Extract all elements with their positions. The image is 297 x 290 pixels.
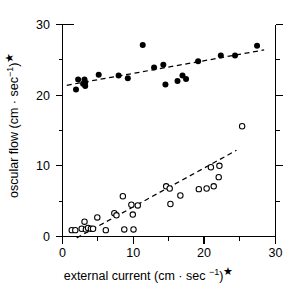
data-point: [73, 227, 78, 232]
data-points-filled: [73, 42, 260, 93]
data-point: [122, 227, 127, 232]
data-point: [116, 72, 122, 78]
data-point: [196, 186, 201, 191]
scatter-plot-figure: 30 20 10 0 0 10 20 30 external current (…: [0, 0, 297, 290]
data-point: [162, 82, 168, 88]
x-tick-label-10: 10: [126, 246, 140, 260]
data-point: [151, 65, 157, 71]
data-point: [168, 201, 173, 206]
data-point: [140, 42, 146, 48]
data-point: [90, 226, 95, 231]
y-axis-title-wrap: oscular flow (cm · sec−1)★: [0, 0, 26, 250]
y-tick-label-30: 30: [36, 18, 50, 32]
trend-line-open-circles: [77, 150, 237, 238]
data-point: [120, 194, 125, 199]
x-tick-label-0: 0: [59, 246, 66, 260]
y-axis-title: oscular flow (cm · sec−1)★: [5, 52, 22, 197]
data-point: [135, 203, 140, 208]
data-point: [95, 215, 100, 220]
data-point: [211, 184, 216, 189]
data-point: [160, 62, 166, 68]
data-point: [239, 124, 244, 129]
data-point: [167, 186, 172, 191]
y-axis-ticks: [56, 25, 63, 237]
data-point: [175, 78, 181, 84]
y-tick-labels: 30 20 10 0: [36, 18, 50, 244]
data-point: [82, 219, 87, 224]
data-point: [208, 165, 213, 170]
x-axis-ticks: [63, 237, 276, 244]
y-axis-title-text: oscular flow (cm · sec−1)★: [8, 52, 22, 197]
data-point: [114, 213, 119, 218]
y-axis-right-ticks: [276, 25, 283, 202]
data-point: [103, 227, 108, 232]
x-axis-title: external current (cm · sec −1)★: [0, 266, 297, 283]
data-point: [73, 87, 79, 93]
y-tick-label-20: 20: [36, 89, 50, 103]
data-point: [130, 212, 135, 217]
x-tick-label-30: 30: [269, 246, 283, 260]
data-points-open: [69, 124, 245, 233]
data-point: [75, 77, 81, 83]
data-point: [218, 53, 224, 59]
x-tick-labels: 0 10 20 30: [59, 246, 282, 260]
data-point: [217, 163, 222, 168]
y-tick-label-10: 10: [36, 159, 50, 173]
data-point: [183, 76, 189, 82]
data-point: [232, 53, 238, 59]
data-point: [178, 193, 183, 198]
plot-area: 30 20 10 0 0 10 20 30: [0, 0, 297, 290]
data-point: [195, 58, 201, 64]
x-tick-label-20: 20: [197, 246, 211, 260]
data-point: [204, 186, 209, 191]
data-point: [82, 83, 88, 89]
trend-lines: [67, 50, 264, 238]
data-point: [131, 227, 136, 232]
data-point: [216, 174, 221, 179]
data-point: [254, 43, 260, 49]
data-point: [96, 72, 102, 78]
y-tick-label-0: 0: [43, 230, 50, 244]
x-axis-title-text: external current (cm · sec −1)★: [64, 269, 234, 283]
data-point: [129, 202, 134, 207]
data-point: [125, 75, 131, 81]
